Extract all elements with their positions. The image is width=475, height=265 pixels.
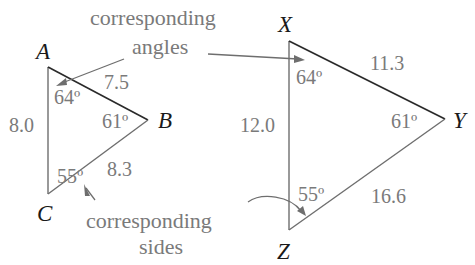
angle-c: 55º: [57, 165, 83, 187]
corresponding-sides-annotation: corresponding sides: [84, 184, 306, 259]
side-label-ab: 7.5: [104, 71, 129, 93]
arrow-to-side-yz: [248, 196, 301, 211]
arrowhead-icon: [84, 184, 90, 196]
side-label-xy: 11.3: [370, 52, 404, 74]
side-label-yz: 16.6: [371, 185, 406, 207]
sides-label-line2: sides: [139, 234, 183, 259]
side-label-bc: 8.3: [107, 158, 132, 180]
vertex-label-x: X: [277, 12, 293, 37]
similar-triangles-figure: A B C 64º 61º 55º 7.5 8.3 8.0 X Y Z 64º …: [0, 0, 475, 265]
vertex-label-y: Y: [453, 108, 468, 133]
corresponding-angles-annotation: corresponding angles: [56, 5, 305, 86]
angle-z: 55º: [298, 183, 324, 205]
angles-label-line2: angles: [132, 34, 188, 59]
angle-y: 61º: [391, 110, 417, 132]
vertex-label-z: Z: [277, 239, 290, 264]
angles-label-line1: corresponding: [90, 5, 216, 30]
angle-b: 61º: [102, 110, 128, 132]
angle-a: 64º: [54, 86, 80, 108]
side-yz: [289, 119, 445, 230]
vertex-label-a: A: [34, 39, 51, 64]
vertex-label-b: B: [158, 108, 172, 133]
triangle-abc: A B C 64º 61º 55º 7.5 8.3 8.0: [9, 39, 172, 226]
side-label-ac: 8.0: [9, 114, 34, 136]
triangle-xyz: X Y Z 64º 61º 55º 11.3 16.6 12.0: [240, 12, 468, 264]
arrowhead-icon: [56, 78, 67, 86]
arrowhead-icon: [294, 55, 305, 63]
side-label-xz: 12.0: [240, 114, 275, 136]
arrow-to-angle-x: [208, 54, 298, 59]
figure-canvas: A B C 64º 61º 55º 7.5 8.3 8.0 X Y Z 64º …: [0, 0, 475, 265]
angle-x: 64º: [296, 66, 322, 88]
vertex-label-c: C: [37, 201, 53, 226]
sides-label-line1: corresponding: [86, 208, 212, 233]
